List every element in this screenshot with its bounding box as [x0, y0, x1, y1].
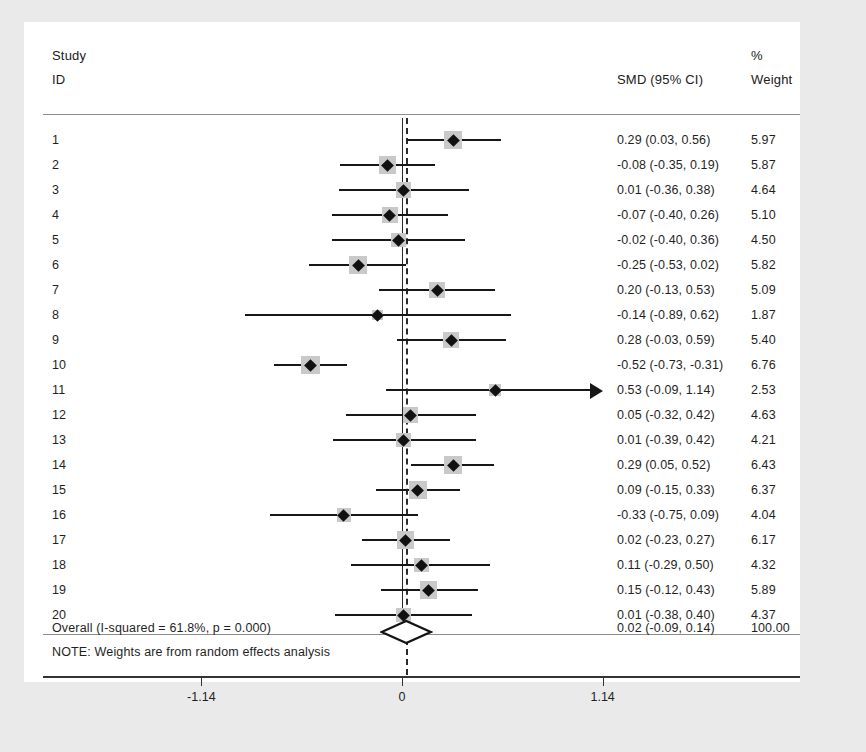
study-row: 130.01 (-0.39, 0.42)4.21 — [0, 428, 866, 453]
study-row: 5-0.02 (-0.40, 0.36)4.50 — [0, 228, 866, 253]
axis-tick-label: 0 — [399, 690, 406, 704]
column-header-weight: Weight — [751, 72, 792, 87]
study-row: 120.05 (-0.32, 0.42)4.63 — [0, 403, 866, 428]
study-row: 180.11 (-0.29, 0.50)4.32 — [0, 553, 866, 578]
study-estimate-text: -0.02 (-0.40, 0.36) — [617, 233, 719, 247]
study-estimate-text: 0.01 (-0.36, 0.38) — [617, 183, 715, 197]
study-id-label: 6 — [52, 258, 59, 272]
study-id-label: 19 — [52, 583, 66, 597]
study-row: 10.29 (0.03, 0.56)5.97 — [0, 128, 866, 153]
study-id-label: 17 — [52, 533, 66, 547]
study-row: 6-0.25 (-0.53, 0.02)5.82 — [0, 253, 866, 278]
study-id-label: 3 — [52, 183, 59, 197]
study-weight-text: 2.53 — [751, 383, 776, 397]
study-id-label: 4 — [52, 208, 59, 222]
forest-plot-figure: Study ID SMD (95% CI) % Weight 10.29 (0.… — [0, 0, 866, 752]
study-estimate-text: -0.07 (-0.40, 0.26) — [617, 208, 719, 222]
study-id-label: 9 — [52, 333, 59, 347]
study-row: 16-0.33 (-0.75, 0.09)4.04 — [0, 503, 866, 528]
overall-weight: 100.00 — [751, 621, 790, 635]
study-estimate-text: 0.05 (-0.32, 0.42) — [617, 408, 715, 422]
x-axis-line — [43, 676, 800, 678]
study-estimate-text: 0.28 (-0.03, 0.59) — [617, 333, 715, 347]
study-row: 170.02 (-0.23, 0.27)6.17 — [0, 528, 866, 553]
header-divider-rule — [43, 114, 800, 115]
study-id-label: 1 — [52, 133, 59, 147]
overall-label: Overall (I-squared = 61.8%, p = 0.000) — [52, 621, 271, 635]
study-row: 8-0.14 (-0.89, 0.62)1.87 — [0, 303, 866, 328]
study-estimate-text: -0.52 (-0.73, -0.31) — [617, 358, 723, 372]
study-weight-text: 5.87 — [751, 158, 776, 172]
study-id-label: 8 — [52, 308, 59, 322]
study-estimate-text: 0.53 (-0.09, 1.14) — [617, 383, 715, 397]
summary-diamond-icon — [380, 616, 432, 648]
study-id-label: 18 — [52, 558, 66, 572]
study-id-label: 11 — [52, 383, 65, 397]
study-id-label: 15 — [52, 483, 66, 497]
study-estimate-text: 0.29 (0.03, 0.56) — [617, 133, 710, 147]
study-weight-text: 6.37 — [751, 483, 776, 497]
study-weight-text: 5.89 — [751, 583, 776, 597]
study-id-label: 2 — [52, 158, 59, 172]
study-estimate-text: 0.29 (0.05, 0.52) — [617, 458, 710, 472]
study-id-label: 14 — [52, 458, 66, 472]
study-row: 140.29 (0.05, 0.52)6.43 — [0, 453, 866, 478]
study-weight-text: 4.63 — [751, 408, 776, 422]
study-estimate-text: 0.09 (-0.15, 0.33) — [617, 483, 715, 497]
column-header-percent: % — [751, 48, 763, 63]
study-row: 190.15 (-0.12, 0.43)5.89 — [0, 578, 866, 603]
study-id-label: 13 — [52, 433, 66, 447]
study-weight-text: 5.10 — [751, 208, 776, 222]
axis-tick — [603, 678, 604, 686]
study-row: 110.53 (-0.09, 1.14)2.53 — [0, 378, 866, 403]
study-estimate-text: -0.14 (-0.89, 0.62) — [617, 308, 719, 322]
overall-estimate: 0.02 (-0.09, 0.14) — [617, 621, 715, 635]
study-row: 30.01 (-0.36, 0.38)4.64 — [0, 178, 866, 203]
study-weight-text: 5.40 — [751, 333, 776, 347]
study-row: 90.28 (-0.03, 0.59)5.40 — [0, 328, 866, 353]
study-weight-text: 5.97 — [751, 133, 776, 147]
study-id-label: 10 — [52, 358, 66, 372]
study-weight-text: 5.09 — [751, 283, 776, 297]
study-row: 2-0.08 (-0.35, 0.19)5.87 — [0, 153, 866, 178]
study-weight-text: 4.32 — [751, 558, 776, 572]
study-weight-text: 6.17 — [751, 533, 776, 547]
study-estimate-text: -0.33 (-0.75, 0.09) — [617, 508, 719, 522]
axis-tick — [201, 678, 202, 686]
study-estimate-text: -0.08 (-0.35, 0.19) — [617, 158, 719, 172]
axis-tick — [402, 678, 403, 686]
study-estimate-text: 0.20 (-0.13, 0.53) — [617, 283, 715, 297]
study-row: 150.09 (-0.15, 0.33)6.37 — [0, 478, 866, 503]
column-header-estimate: SMD (95% CI) — [617, 72, 703, 87]
study-weight-text: 4.50 — [751, 233, 776, 247]
column-header-id: ID — [52, 72, 65, 87]
column-header-study: Study — [52, 48, 86, 63]
study-estimate-text: 0.11 (-0.29, 0.50) — [617, 558, 714, 572]
study-weight-text: 5.82 — [751, 258, 776, 272]
study-weight-text: 1.87 — [751, 308, 776, 322]
study-estimate-text: 0.02 (-0.23, 0.27) — [617, 533, 715, 547]
study-id-label: 16 — [52, 508, 66, 522]
study-estimate-text: 0.01 (-0.39, 0.42) — [617, 433, 715, 447]
study-estimate-text: -0.25 (-0.53, 0.02) — [617, 258, 719, 272]
axis-tick-label: -1.14 — [187, 690, 216, 704]
study-weight-text: 4.04 — [751, 508, 776, 522]
study-row: 4-0.07 (-0.40, 0.26)5.10 — [0, 203, 866, 228]
study-estimate-text: 0.15 (-0.12, 0.43) — [617, 583, 715, 597]
study-row: 70.20 (-0.13, 0.53)5.09 — [0, 278, 866, 303]
study-weight-text: 4.21 — [751, 433, 776, 447]
study-row: 10-0.52 (-0.73, -0.31)6.76 — [0, 353, 866, 378]
study-id-label: 12 — [52, 408, 66, 422]
overall-row: Overall (I-squared = 61.8%, p = 0.000) 0… — [0, 616, 866, 641]
weights-note: NOTE: Weights are from random effects an… — [52, 645, 330, 659]
study-weight-text: 6.43 — [751, 458, 776, 472]
study-weight-text: 4.64 — [751, 183, 776, 197]
study-id-label: 7 — [52, 283, 59, 297]
study-id-label: 5 — [52, 233, 59, 247]
axis-tick-label: 1.14 — [590, 690, 614, 704]
ci-truncation-arrow-icon — [590, 383, 603, 399]
study-weight-text: 6.76 — [751, 358, 776, 372]
